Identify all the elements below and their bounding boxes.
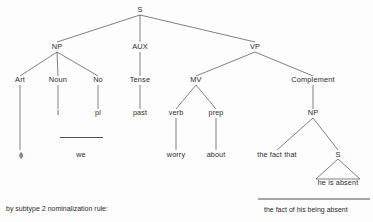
edge-np-the-fact-that: [277, 118, 313, 150]
node-embedded-np: NP: [308, 109, 319, 116]
terminal-he-is-absent: he is absent: [318, 179, 359, 186]
nominalization-rule-caption: by subtype 2 nominalization rule:: [6, 205, 108, 212]
syntax-tree-diagram: S NP AUX VP Art Noun No Tense MV Complem…: [0, 0, 373, 222]
edge-np-no: [57, 52, 98, 76]
edge-mv-prep: [196, 85, 216, 109]
node-root-s: S: [137, 6, 142, 13]
node-mv: MV: [190, 76, 201, 83]
node-prep: prep: [209, 109, 224, 116]
edge-vp-mv: [196, 52, 255, 76]
edge-vp-complement: [255, 52, 313, 76]
edge-mv-verb: [176, 85, 196, 109]
node-verb: verb: [169, 109, 184, 116]
terminal-prep-about: about: [207, 151, 226, 158]
node-vp: VP: [250, 43, 260, 50]
node-noun-feature: I: [57, 109, 59, 116]
node-no: No: [93, 76, 103, 83]
node-tense-feature: past: [133, 109, 147, 116]
edge-np-art: [20, 52, 57, 76]
embedded-s-triangle: [316, 159, 360, 179]
node-embedded-s: S: [335, 151, 340, 158]
edge-s-vp: [140, 15, 255, 42]
node-no-feature: pl: [95, 109, 101, 116]
node-np: NP: [52, 43, 63, 50]
node-art: Art: [15, 76, 25, 83]
terminal-art-phi: ϕ: [19, 151, 23, 158]
node-complement: Complement: [291, 76, 334, 83]
edge-s-np: [57, 15, 140, 42]
terminal-np-lexical-we: we: [76, 151, 86, 158]
derived-surface-string: the fact of his being absent: [264, 206, 348, 213]
terminal-verb-worry: worry: [167, 151, 185, 158]
node-tense: Tense: [130, 76, 150, 83]
node-aux: AUX: [132, 43, 148, 50]
terminal-the-fact-that: the fact that: [257, 151, 297, 158]
edge-np-embedded-s: [313, 118, 338, 150]
edge-np-noun: [57, 52, 58, 76]
node-noun: Noun: [49, 76, 67, 83]
